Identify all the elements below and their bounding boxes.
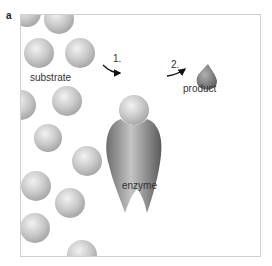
diagram-frame: substrate 1. 2. product enzyme bbox=[20, 14, 261, 257]
enzyme-diagram bbox=[21, 15, 260, 256]
step2-label: 2. bbox=[171, 59, 179, 70]
step2-arrow bbox=[167, 69, 185, 76]
substrate-label: substrate bbox=[30, 72, 71, 83]
bound-substrate bbox=[119, 95, 149, 125]
product-label: product bbox=[183, 83, 216, 94]
step1-arrow bbox=[103, 65, 120, 73]
substrate-molecules bbox=[21, 15, 102, 256]
step1-label: 1. bbox=[113, 53, 121, 64]
enzyme-label: enzyme bbox=[122, 180, 157, 191]
panel-letter: a bbox=[6, 10, 12, 21]
enzyme-shape bbox=[106, 119, 161, 213]
